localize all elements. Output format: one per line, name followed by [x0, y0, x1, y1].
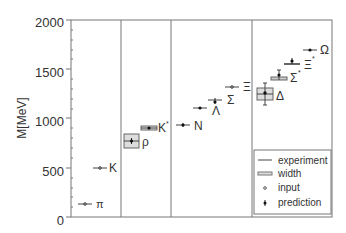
svg-text:K: K — [109, 161, 117, 175]
svg-text:Σ: Σ — [290, 71, 297, 85]
svg-text:*: * — [298, 69, 301, 76]
svg-text:Λ: Λ — [212, 104, 220, 118]
svg-text:Ξ: Ξ — [304, 58, 312, 72]
tick-label: 1000 — [35, 114, 64, 129]
point-Lambda: Λ — [193, 104, 220, 118]
point-Omega: Ω — [303, 43, 329, 57]
legend-width: width — [277, 168, 301, 179]
tick-label: 500 — [42, 164, 64, 179]
tick-label: 0 — [57, 213, 64, 228]
svg-text:Δ: Δ — [276, 89, 284, 103]
point-pi: π — [78, 198, 104, 210]
legend-prediction: prediction — [278, 197, 321, 208]
svg-text:K: K — [158, 121, 166, 135]
svg-text:Ω: Ω — [320, 43, 329, 57]
point-Xi: Ξ — [225, 80, 251, 94]
y-axis-label: M[MeV] — [15, 97, 29, 138]
legend-width-icon — [258, 172, 272, 175]
y-tick-labels: 0 500 1000 1500 2000 — [35, 15, 64, 228]
point-N: N — [176, 119, 203, 133]
point-Delta: Δ — [257, 83, 284, 105]
svg-text:*: * — [166, 120, 169, 127]
legend-input: input — [278, 182, 300, 193]
y-ticks — [66, 20, 73, 217]
svg-text:π: π — [96, 198, 104, 210]
legend-experiment: experiment — [278, 155, 328, 166]
point-SigmaStar: Σ * — [271, 69, 301, 85]
svg-text:Σ: Σ — [227, 93, 234, 107]
tick-label: 2000 — [35, 15, 64, 30]
svg-text:*: * — [312, 55, 315, 62]
point-rho: ρ — [124, 134, 149, 149]
legend: experiment width input prediction — [254, 150, 331, 214]
svg-text:Ξ: Ξ — [243, 80, 251, 94]
mass-spectrum-chart: 0 500 1000 1500 2000 M[MeV] π K ρ K * N … — [0, 0, 346, 233]
point-Kstar: K * — [141, 120, 169, 135]
tick-label: 1500 — [35, 65, 64, 80]
svg-text:ρ: ρ — [142, 135, 149, 149]
point-K: K — [93, 161, 117, 175]
svg-text:N: N — [194, 119, 203, 133]
